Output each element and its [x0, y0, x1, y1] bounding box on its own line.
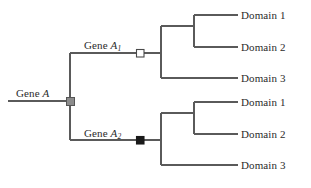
gene-a2-node-black-square-icon	[137, 137, 145, 145]
leaf-label-a1-domain-1: Domain 1	[241, 10, 286, 21]
root-label-gene: A	[42, 87, 49, 99]
root-node-gray-square-icon	[67, 98, 75, 106]
branch-a1-label-prefix: Gene	[84, 39, 110, 51]
branch-a1-label-subscript: 1	[117, 44, 121, 53]
leaf-label-a2-domain-1: Domain 1	[241, 97, 286, 108]
gene-a1-node-white-square-icon	[137, 50, 145, 58]
leaf-label-a2-domain-3: Domain 3	[241, 160, 286, 171]
branch-label-gene-a2: Gene A2	[84, 128, 121, 140]
branch-a2-label-subscript: 2	[117, 132, 121, 141]
branch-label-gene-a1: Gene A1	[84, 40, 121, 52]
leaf-label-a1-domain-3: Domain 3	[241, 73, 286, 84]
branch-a2-label-prefix: Gene	[84, 127, 110, 139]
root-label-prefix: Gene	[16, 87, 42, 99]
gene-tree-figure: Gene A Gene A1 Gene A2 Domain 1 Domain 2…	[0, 0, 311, 188]
leaf-label-a2-domain-2: Domain 2	[241, 129, 286, 140]
leaf-label-a1-domain-2: Domain 2	[241, 42, 286, 53]
root-label-gene-a: Gene A	[16, 88, 49, 99]
